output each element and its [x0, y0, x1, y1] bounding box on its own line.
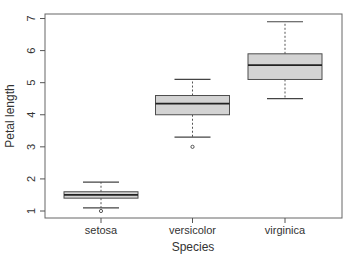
- x-axis-label: Species: [172, 240, 215, 254]
- y-axis-label: Petal length: [3, 84, 17, 147]
- box-setosa: [64, 182, 138, 212]
- x-tick-label-versicolor: versicolor: [169, 224, 216, 236]
- x-axis: setosaversicolorvirginica: [85, 218, 306, 236]
- y-tick-label: 3: [25, 144, 37, 150]
- y-tick-label: 2: [25, 176, 37, 182]
- y-tick-label: 1: [25, 208, 37, 214]
- x-tick-label-setosa: setosa: [85, 224, 118, 236]
- x-tick-label-virginica: virginica: [265, 224, 306, 236]
- outlier-point: [99, 209, 102, 212]
- y-axis: 1234567: [25, 15, 45, 214]
- plot-frame: [45, 14, 342, 218]
- box-virginica: [248, 22, 322, 99]
- y-tick-label: 5: [25, 80, 37, 86]
- iqr-box: [248, 54, 322, 80]
- y-tick-label: 7: [25, 15, 37, 21]
- outlier-point: [191, 145, 194, 148]
- iqr-box: [156, 96, 230, 115]
- boxes: [64, 22, 322, 213]
- y-tick-label: 4: [25, 112, 37, 118]
- box-versicolor: [156, 79, 230, 148]
- boxplot-chart: 1234567 setosaversicolorvirginica Petal …: [0, 0, 354, 263]
- y-tick-label: 6: [25, 48, 37, 54]
